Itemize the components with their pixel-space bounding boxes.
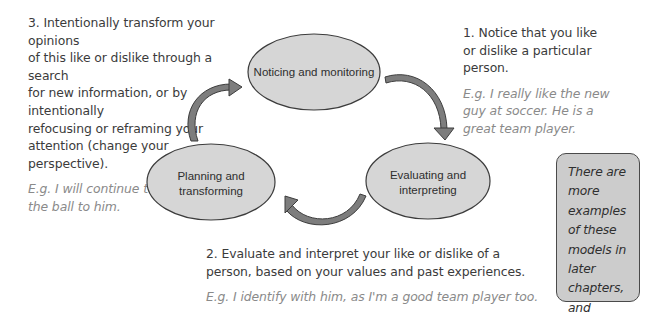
callout-line: examples of these [568, 202, 635, 241]
node-evaluating-label-line1: Evaluating and [390, 169, 466, 181]
callout-line: models in later [568, 241, 635, 280]
callout-line: chapters, and [568, 279, 635, 318]
node-planning-label-line2: transforming [179, 185, 243, 197]
node-planning: Planning and transforming [147, 144, 275, 220]
arrow-noticing-to-evaluating-icon [385, 75, 454, 140]
callout-box: There are more examples of these models … [556, 153, 640, 302]
callout-line: There are more [568, 163, 635, 202]
node-noticing-label: Noticing and monitoring [254, 66, 375, 78]
node-planning-label-line1: Planning and [177, 170, 244, 182]
node-evaluating: Evaluating and interpreting [366, 143, 490, 219]
node-noticing: Noticing and monitoring [248, 34, 380, 110]
cycle-diagram: Noticing and monitoring Evaluating and i… [0, 0, 649, 318]
arrow-planning-to-noticing-icon [188, 79, 242, 141]
node-evaluating-label-line2: interpreting [399, 184, 457, 196]
arrow-evaluating-to-planning-icon [285, 194, 366, 225]
